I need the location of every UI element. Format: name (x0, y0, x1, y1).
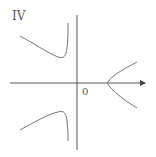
right-branch-curve (107, 62, 137, 108)
upper-left-branch-curve (20, 23, 68, 58)
panel-label: IV (12, 10, 25, 22)
function-graph-diagram: IV 0 (0, 0, 156, 157)
lower-left-branch-curve (20, 111, 68, 141)
origin-label: 0 (82, 87, 88, 97)
graph-plot (0, 0, 156, 157)
